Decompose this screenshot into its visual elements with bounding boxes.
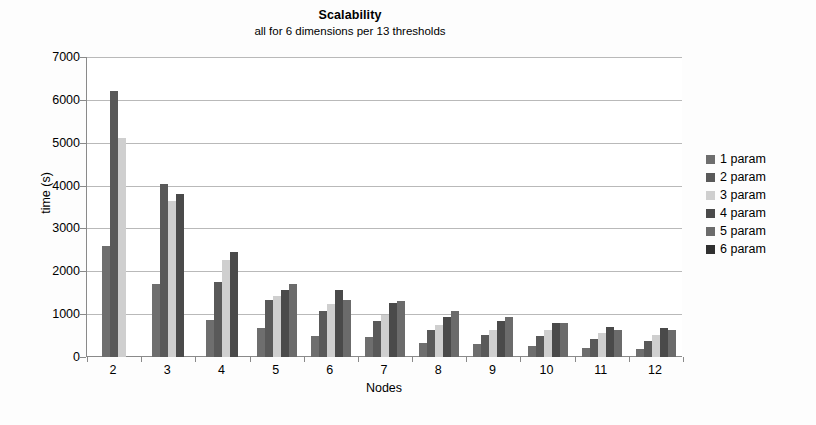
legend-item: 3 param [706,186,810,204]
bar [489,330,497,357]
bar [273,296,281,357]
x-tick-mark [520,357,521,362]
bar [536,336,544,357]
bar [606,327,614,357]
legend-label: 3 param [720,189,766,202]
bar-group [87,57,141,357]
title-block: Scalability all for 6 dimensions per 13 … [0,8,700,39]
x-tick-label: 7 [354,363,414,377]
legend-swatch-icon [706,209,715,218]
bar [419,343,427,357]
bars-layer [87,57,682,357]
bar [110,91,118,357]
legend-item: 6 param [706,240,810,258]
legend-label: 1 param [720,153,766,166]
legend-item: 5 param [706,222,810,240]
bar-group [358,57,412,357]
y-tick-label: 2000 [20,265,80,277]
bar [582,348,590,357]
bar-group [412,57,466,357]
x-tick-label: 6 [300,363,360,377]
x-tick-label: 3 [137,363,197,377]
bar [214,282,222,357]
legend-item: 1 param [706,150,810,168]
chart-subtitle: all for 6 dimensions per 13 thresholds [0,24,700,39]
x-tick-label: 4 [191,363,251,377]
x-axis-label: Nodes [86,381,682,395]
bar [365,337,373,357]
y-tick-label: 1000 [20,308,80,320]
bar [257,328,265,357]
bar [544,330,552,357]
legend-swatch-icon [706,191,715,200]
bar [644,341,652,357]
y-tick-label: 3000 [20,222,80,234]
x-tick-label: 12 [625,363,685,377]
legend-swatch-icon [706,155,715,164]
bar-group [466,57,520,357]
bar [343,300,351,357]
legend: 1 param2 param3 param4 param5 param6 par… [706,150,810,258]
x-tick-mark [466,357,467,362]
bar [289,284,297,357]
x-tick-label: 2 [83,363,143,377]
legend-label: 5 param [720,225,766,238]
bar [381,315,389,357]
legend-item: 4 param [706,204,810,222]
x-tick-mark [141,357,142,362]
bar [335,290,343,357]
bar [118,138,126,357]
x-tick-mark [358,357,359,362]
legend-item: 2 param [706,168,810,186]
bar [206,320,214,357]
y-tick-mark [80,357,86,358]
bar [160,184,168,357]
bar [230,252,238,357]
bar [528,346,536,357]
legend-label: 2 param [720,171,766,184]
bar-group [250,57,304,357]
bar [552,323,560,357]
y-tick-label: 7000 [20,51,80,63]
legend-swatch-icon [706,227,715,236]
y-tick-label: 5000 [20,137,80,149]
chart-canvas: Scalability all for 6 dimensions per 13 … [0,0,816,425]
bar [668,330,676,357]
bar [311,336,319,357]
bar [435,325,443,357]
y-axis-label: time (s) [39,133,53,253]
bar-group [195,57,249,357]
x-tick-mark [683,357,684,362]
bar [222,260,230,357]
x-tick-label: 10 [517,363,577,377]
bar [636,349,644,357]
x-tick-mark [304,357,305,362]
bar [598,333,606,357]
bar [176,194,184,357]
bar [590,339,598,357]
x-tick-label: 9 [462,363,522,377]
bar [397,301,405,357]
x-tick-mark [87,357,88,362]
x-tick-mark [575,357,576,362]
chart-title: Scalability [0,8,700,23]
x-tick-mark [629,357,630,362]
x-tick-label: 11 [571,363,631,377]
x-tick-mark [195,357,196,362]
bar [614,330,622,357]
bar-group [629,57,683,357]
bar [451,311,459,357]
bar [265,300,273,357]
y-tick-label: 4000 [20,180,80,192]
bar-group [304,57,358,357]
bar [505,317,513,357]
x-tick-mark [250,357,251,362]
bar [168,201,176,357]
legend-swatch-icon [706,173,715,182]
legend-label: 4 param [720,207,766,220]
x-tick-label: 5 [246,363,306,377]
y-tick-label: 0 [20,351,80,363]
bar-group [575,57,629,357]
bar [373,321,381,357]
bar [473,344,481,357]
